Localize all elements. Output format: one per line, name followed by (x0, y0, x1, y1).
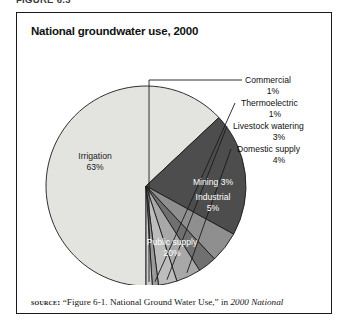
pie-label-text: Domestic supply (237, 144, 301, 154)
pie-chart: Irrigation63%Public supply20%Industrial5… (17, 13, 333, 283)
pie-label-text: Industrial (196, 192, 231, 202)
pie-label-text: 20% (163, 248, 181, 258)
pie-label-text: 1% (267, 86, 280, 96)
source-text: “Figure 6-1. National Ground Water Use,”… (60, 297, 230, 307)
source-label: source: (31, 297, 60, 307)
pie-label-text: Livestock watering (233, 121, 304, 131)
pie-label-text: 63% (86, 162, 104, 172)
figure-box: National groundwater use, 2000 Irrigatio… (16, 12, 332, 314)
figure-page: FIGURE 6.3 National groundwater use, 200… (0, 0, 350, 325)
pie-label-text: Thermoelectric (241, 98, 299, 108)
pie-label-text: 5% (207, 203, 220, 213)
pie-label-text: 3% (273, 132, 286, 142)
pie-label-text: Public supply (147, 237, 198, 247)
figure-caption: FIGURE 6.3 (16, 0, 71, 5)
pie-label-text: 1% (269, 109, 282, 119)
source-italic-title: 2000 National (230, 297, 283, 307)
pie-label-text: Mining 3% (193, 177, 233, 187)
pie-label-text: 4% (273, 155, 286, 165)
pie-chart-svg: Irrigation63%Public supply20%Industrial5… (17, 13, 333, 285)
source-note: source: “Figure 6-1. National Ground Wat… (31, 296, 327, 308)
pie-label-text: Commercial (245, 75, 291, 85)
pie-label-text: Irrigation (78, 151, 112, 161)
